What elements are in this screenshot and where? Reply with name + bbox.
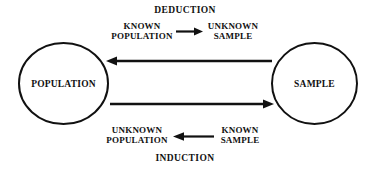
deduction-source-line2: POPULATION	[111, 31, 173, 41]
deduction-arrow-icon	[176, 28, 203, 36]
deduction-title: DEDUCTION	[154, 5, 216, 15]
induction-arrow-icon	[173, 132, 214, 141]
induction-target-line2: POPULATION	[106, 135, 168, 145]
sample-node-label: SAMPLE	[294, 79, 335, 89]
deduction-source-line1: KNOWN	[124, 21, 161, 31]
population-node-label: POPULATION	[31, 79, 96, 89]
deduction-target-line1: UNKNOWN	[208, 21, 259, 31]
induction-source-line2: SAMPLE	[221, 135, 260, 145]
induction-source-line1: KNOWN	[222, 125, 259, 135]
diagram-canvas-root: DEDUCTION KNOWN POPULATION UNKNOWN SAMPL…	[0, 0, 370, 173]
deduction-target-line2: SAMPLE	[214, 31, 253, 41]
lower-connector-arrow-icon	[110, 99, 274, 108]
induction-target-line1: UNKNOWN	[112, 125, 163, 135]
upper-connector-arrow-icon	[106, 56, 272, 65]
induction-title: INDUCTION	[155, 153, 214, 163]
